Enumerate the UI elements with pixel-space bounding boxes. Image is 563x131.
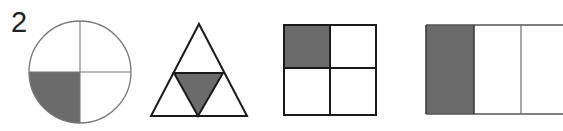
circle-shaded-quarter — [29, 72, 80, 123]
rectangle-figure — [426, 25, 563, 114]
rectangle-shaded-third — [426, 25, 474, 114]
circle-figure — [29, 21, 131, 123]
square-figure — [284, 25, 376, 115]
triangle-shaded-center — [174, 73, 223, 116]
square-shaded-quarter — [284, 25, 330, 68]
triangle-figure — [151, 24, 247, 116]
fraction-figures — [0, 0, 563, 131]
